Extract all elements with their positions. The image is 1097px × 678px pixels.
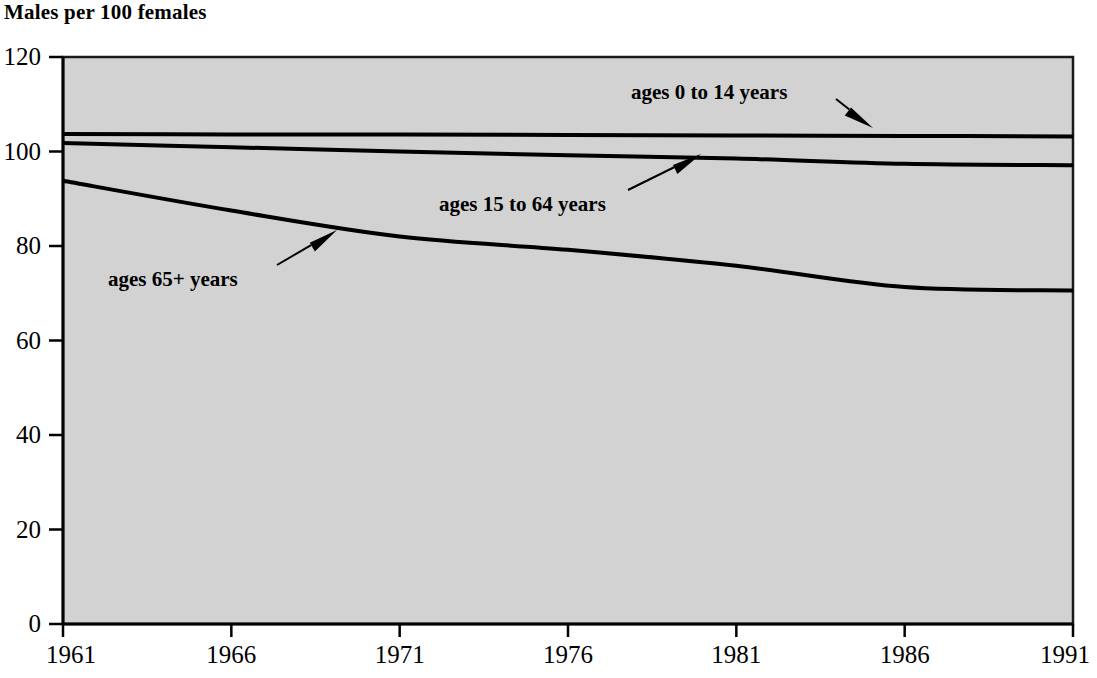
chart-figure: Males per 100 females 020406080100120 19…: [0, 0, 1097, 678]
x-tick-label: 1986: [845, 642, 965, 667]
y-axis-ticks: [49, 57, 63, 624]
x-tick-label: 1981: [676, 642, 796, 667]
series-annotation-label-2: ages 65+ years: [108, 269, 238, 290]
plot-background: [63, 57, 1073, 624]
y-tick-label: 120: [0, 44, 41, 69]
y-tick-label: 60: [0, 328, 41, 353]
x-tick-label: 1966: [171, 642, 291, 667]
x-tick-label: 1991: [1005, 642, 1097, 667]
y-tick-label: 20: [0, 517, 41, 542]
x-tick-label: 1971: [340, 642, 460, 667]
x-tick-label: 1961: [11, 642, 131, 667]
y-tick-label: 0: [0, 611, 41, 636]
y-tick-label: 80: [0, 233, 41, 258]
x-tick-label: 1976: [508, 642, 628, 667]
x-axis-ticks: [63, 624, 1073, 637]
series-annotation-label-1: ages 15 to 64 years: [439, 194, 606, 215]
series-annotation-label-0: ages 0 to 14 years: [631, 82, 787, 103]
line-chart-canvas: [0, 0, 1097, 678]
y-tick-label: 100: [0, 139, 41, 164]
y-tick-label: 40: [0, 422, 41, 447]
series-line-0: [63, 134, 1073, 136]
